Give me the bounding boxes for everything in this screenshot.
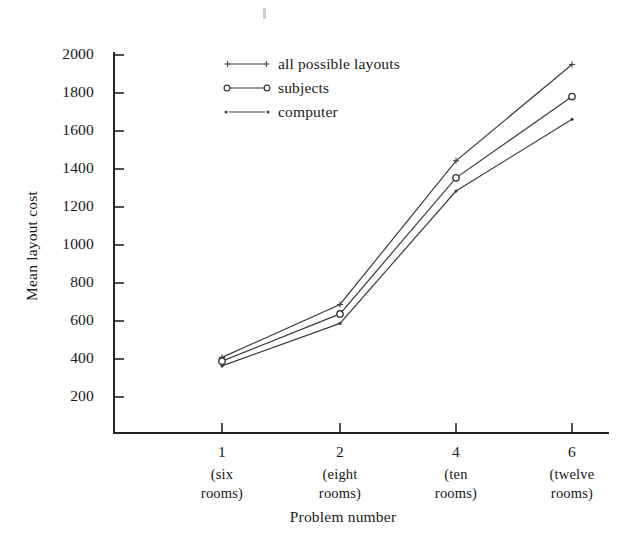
legend-label-computer: computer bbox=[278, 103, 338, 121]
axis-spines bbox=[113, 52, 609, 434]
x-axis-title: Problem number bbox=[228, 508, 458, 526]
data-point-computer-4 bbox=[454, 189, 457, 192]
legend-label-all-possible-layouts: all possible layouts bbox=[278, 55, 400, 73]
y-tick-label-2000: 2000 bbox=[32, 45, 94, 63]
y-tick-label-1000: 1000 bbox=[32, 235, 94, 253]
data-point-computer-6 bbox=[570, 118, 573, 121]
data-point-subjects-4 bbox=[453, 175, 459, 181]
y-tick-label-1400: 1400 bbox=[32, 159, 94, 177]
y-tick-label-1800: 1800 bbox=[32, 83, 94, 101]
x-tick-sub2-6: rooms) bbox=[527, 485, 617, 502]
x-tick-label-1: 1 bbox=[182, 443, 262, 461]
data-point-subjects-1 bbox=[219, 358, 225, 364]
plus-marker-icon bbox=[220, 57, 274, 71]
x-tick-sub2-2: rooms) bbox=[295, 485, 385, 502]
y-tick-label-400: 400 bbox=[32, 349, 94, 367]
series-line-all-possible-layouts bbox=[222, 64, 572, 357]
x-tick-sub2-4: rooms) bbox=[411, 485, 501, 502]
x-tick-label-2: 2 bbox=[300, 443, 380, 461]
x-tick-label-4: 4 bbox=[416, 443, 496, 461]
y-tick-label-800: 800 bbox=[32, 273, 94, 291]
x-tick-sub2-1: rooms) bbox=[177, 485, 267, 502]
data-point-subjects-6 bbox=[569, 93, 575, 99]
open-circle-marker-icon bbox=[220, 81, 274, 95]
data-point-computer-2 bbox=[338, 322, 341, 325]
y-axis-title: Mean layout cost bbox=[23, 151, 41, 341]
data-point-subjects-2 bbox=[337, 311, 343, 317]
y-tick-label-600: 600 bbox=[32, 311, 94, 329]
legend-label-subjects: subjects bbox=[278, 79, 329, 97]
x-tick-marks bbox=[222, 423, 572, 433]
scan-artifact-speck bbox=[263, 8, 266, 19]
data-point-computer-1 bbox=[220, 364, 223, 367]
x-tick-sub1-2: (eight bbox=[295, 466, 385, 483]
y-tick-label-200: 200 bbox=[32, 387, 94, 405]
x-tick-sub1-1: (six bbox=[177, 466, 267, 483]
dot-marker-icon bbox=[220, 105, 274, 119]
x-tick-sub1-4: (ten bbox=[411, 466, 501, 483]
series-line-computer bbox=[222, 119, 572, 366]
series-line-subjects bbox=[222, 97, 572, 362]
x-tick-sub1-6: (twelve bbox=[527, 466, 617, 483]
y-tick-marks bbox=[114, 55, 124, 397]
chart-figure: 2000 1800 1600 1400 1200 1000 800 600 40… bbox=[0, 0, 624, 543]
x-tick-label-6: 6 bbox=[532, 443, 612, 461]
y-tick-label-1200: 1200 bbox=[32, 197, 94, 215]
y-tick-label-1600: 1600 bbox=[32, 121, 94, 139]
